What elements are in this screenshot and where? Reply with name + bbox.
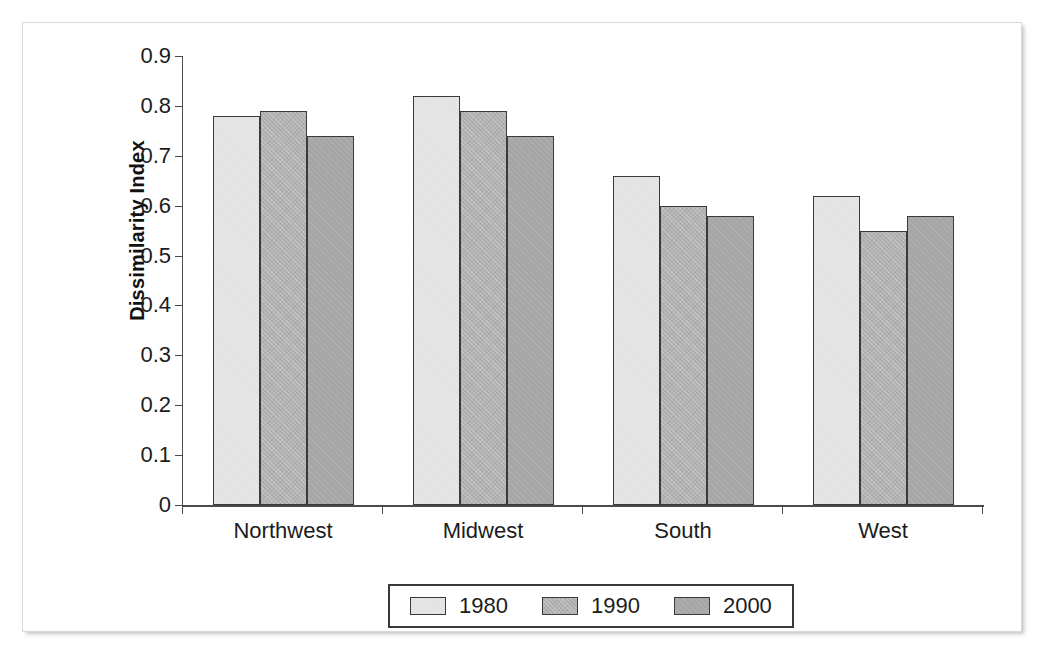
x-axis-tick xyxy=(982,505,983,514)
legend-swatch-1980 xyxy=(410,597,446,615)
y-axis-tick xyxy=(175,256,183,257)
bar-midwest-1990 xyxy=(460,111,507,505)
x-axis-category-northwest: Northwest xyxy=(183,518,383,544)
y-axis-tick-label: 0.7 xyxy=(51,145,171,167)
bar-south-1990 xyxy=(660,206,707,505)
bar-west-2000 xyxy=(907,216,954,505)
legend-swatch-2000 xyxy=(674,597,710,615)
y-axis-tick xyxy=(175,405,183,406)
x-axis-category-south: South xyxy=(583,518,783,544)
y-axis-tick-label: 0.3 xyxy=(51,344,171,366)
bar-south-1980 xyxy=(613,176,660,505)
bar-west-1980 xyxy=(813,196,860,505)
legend-entry-2000: 2000 xyxy=(674,595,772,617)
x-axis-tick xyxy=(382,505,383,514)
legend-label-1980: 1980 xyxy=(459,595,508,617)
legend-swatch-1990 xyxy=(542,597,578,615)
y-axis-tick xyxy=(175,206,183,207)
plot-area xyxy=(183,56,983,505)
bar-northwest-1980 xyxy=(213,116,260,505)
y-axis-tick-label: 0.6 xyxy=(51,195,171,217)
legend-entry-1980: 1980 xyxy=(410,595,508,617)
y-axis-tick xyxy=(175,156,183,157)
bar-south-2000 xyxy=(707,216,754,505)
bar-west-1990 xyxy=(860,231,907,505)
chart-page: Dissimilarity Index 00.10.20.30.40.50.60… xyxy=(0,0,1052,661)
x-axis-category-west: West xyxy=(783,518,983,544)
x-axis-tick xyxy=(182,505,183,514)
y-axis-tick-label: 0.1 xyxy=(51,444,171,466)
chart-frame: Dissimilarity Index 00.10.20.30.40.50.60… xyxy=(22,22,1022,632)
y-axis-tick-label: 0 xyxy=(51,494,171,516)
y-axis-tick xyxy=(175,455,183,456)
x-axis-line xyxy=(182,505,984,507)
y-axis-tick xyxy=(175,355,183,356)
legend-entry-1990: 1990 xyxy=(542,595,640,617)
y-axis-tick-label: 0.4 xyxy=(51,294,171,316)
legend-label-1990: 1990 xyxy=(591,595,640,617)
bar-northwest-1990 xyxy=(260,111,307,505)
x-axis-tick xyxy=(582,505,583,514)
y-axis-tick-label: 0.9 xyxy=(51,45,171,67)
bar-northwest-2000 xyxy=(307,136,354,505)
y-axis-tick xyxy=(175,106,183,107)
x-axis-category-midwest: Midwest xyxy=(383,518,583,544)
chart-legend: 198019902000 xyxy=(388,584,794,628)
bar-midwest-2000 xyxy=(507,136,554,505)
y-axis-tick-label: 0.8 xyxy=(51,95,171,117)
bar-midwest-1980 xyxy=(413,96,460,505)
y-axis-tick-labels: 00.10.20.30.40.50.60.70.80.9 xyxy=(33,56,171,506)
y-axis-tick xyxy=(175,305,183,306)
legend-label-2000: 2000 xyxy=(723,595,772,617)
y-axis-tick xyxy=(175,56,183,57)
y-axis-tick-label: 0.5 xyxy=(51,245,171,267)
x-axis-tick xyxy=(782,505,783,514)
y-axis-tick-label: 0.2 xyxy=(51,394,171,416)
